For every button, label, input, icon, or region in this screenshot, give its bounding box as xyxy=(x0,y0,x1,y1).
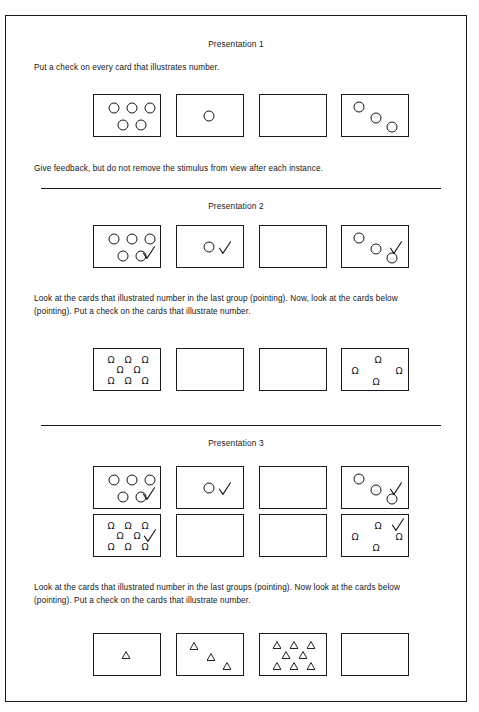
stimulus-card[interactable] xyxy=(259,514,327,557)
circle-shape xyxy=(118,251,129,262)
stimulus-card[interactable] xyxy=(341,466,409,509)
stimulus-card[interactable] xyxy=(259,348,327,391)
stimulus-card[interactable] xyxy=(259,633,327,676)
triangle-shape xyxy=(282,651,291,660)
triangle-shape xyxy=(290,662,299,671)
omega-symbol: Ω xyxy=(124,521,131,530)
triangle-shape xyxy=(207,653,216,662)
omega-symbol: Ω xyxy=(124,542,131,551)
triangle-shape xyxy=(190,642,199,651)
omega-symbol: Ω xyxy=(124,376,131,385)
circle-shape xyxy=(127,475,138,486)
instruction-text: Put a check on every card that illustrat… xyxy=(34,61,434,74)
stimulus-card[interactable] xyxy=(259,94,327,137)
circle-shape xyxy=(127,234,138,245)
stimulus-card[interactable] xyxy=(176,348,244,391)
circle-shape xyxy=(145,103,156,114)
triangle-shape xyxy=(122,651,131,660)
triangle-shape xyxy=(299,651,308,660)
circle-shape xyxy=(204,483,215,494)
omega-symbol: Ω xyxy=(374,521,381,530)
omega-symbol: Ω xyxy=(395,532,402,541)
instruction-text: Give feedback, but do not remove the sti… xyxy=(34,162,434,175)
instruction-text: Look at the cards that illustrated numbe… xyxy=(34,581,434,607)
circle-shape xyxy=(127,103,138,114)
stimulus-card[interactable] xyxy=(93,94,161,137)
triangle-shape xyxy=(273,662,282,671)
stimulus-card[interactable] xyxy=(176,94,244,137)
omega-symbol: Ω xyxy=(107,376,114,385)
stimulus-card[interactable] xyxy=(259,225,327,268)
omega-symbol: Ω xyxy=(372,377,379,386)
stimulus-card[interactable] xyxy=(341,94,409,137)
omega-symbol: Ω xyxy=(141,542,148,551)
stimulus-card[interactable] xyxy=(176,225,244,268)
stimulus-card[interactable] xyxy=(93,225,161,268)
omega-symbol: Ω xyxy=(372,543,379,552)
checkmark-icon xyxy=(144,529,157,543)
circle-shape xyxy=(371,485,382,496)
stimulus-card[interactable]: ΩΩΩΩΩΩΩΩ xyxy=(93,348,161,391)
omega-symbol: Ω xyxy=(107,355,114,364)
section-divider xyxy=(41,188,441,189)
triangle-shape xyxy=(307,662,316,671)
presentation-heading: Presentation 3 xyxy=(6,438,466,448)
checkmark-icon xyxy=(390,241,403,255)
omega-symbol: Ω xyxy=(141,376,148,385)
checkmark-icon xyxy=(219,482,232,496)
circle-shape xyxy=(145,234,156,245)
omega-symbol: Ω xyxy=(133,531,140,540)
circle-shape xyxy=(118,492,129,503)
omega-symbol: Ω xyxy=(351,366,358,375)
circle-shape xyxy=(371,244,382,255)
omega-symbol: Ω xyxy=(133,365,140,374)
circle-shape xyxy=(118,120,129,131)
omega-symbol: Ω xyxy=(116,365,123,374)
circle-shape xyxy=(145,475,156,486)
circle-shape xyxy=(109,475,120,486)
omega-symbol: Ω xyxy=(351,532,358,541)
triangle-shape xyxy=(273,641,282,650)
triangle-shape xyxy=(307,641,316,650)
stimulus-card[interactable] xyxy=(93,466,161,509)
circle-shape xyxy=(354,474,365,485)
stimulus-card[interactable] xyxy=(176,466,244,509)
worksheet-page-frame: Presentation 1Put a check on every card … xyxy=(5,15,467,702)
stimulus-card[interactable]: ΩΩΩΩ xyxy=(341,348,409,391)
triangle-shape xyxy=(223,662,232,671)
stimulus-card[interactable]: ΩΩΩΩ xyxy=(341,514,409,557)
triangle-shape xyxy=(290,641,299,650)
stimulus-card[interactable] xyxy=(341,225,409,268)
section-divider xyxy=(41,425,441,426)
omega-symbol: Ω xyxy=(107,521,114,530)
checkmark-icon xyxy=(219,241,232,255)
stimulus-card[interactable] xyxy=(259,466,327,509)
stimulus-card[interactable] xyxy=(176,633,244,676)
omega-symbol: Ω xyxy=(374,355,381,364)
omega-symbol: Ω xyxy=(124,355,131,364)
circle-shape xyxy=(204,242,215,253)
checkmark-icon xyxy=(392,518,405,532)
omega-symbol: Ω xyxy=(395,366,402,375)
circle-shape xyxy=(136,120,147,131)
stimulus-card[interactable] xyxy=(341,633,409,676)
presentation-heading: Presentation 1 xyxy=(6,39,466,49)
omega-symbol: Ω xyxy=(116,531,123,540)
stimulus-card[interactable]: ΩΩΩΩΩΩΩΩ xyxy=(93,514,161,557)
circle-shape xyxy=(387,122,398,133)
circle-shape xyxy=(109,234,120,245)
circle-shape xyxy=(109,103,120,114)
circle-shape xyxy=(354,102,365,113)
circle-shape xyxy=(354,233,365,244)
checkmark-icon xyxy=(143,246,156,260)
stimulus-card[interactable] xyxy=(93,633,161,676)
omega-symbol: Ω xyxy=(107,542,114,551)
presentation-heading: Presentation 2 xyxy=(6,201,466,211)
omega-symbol: Ω xyxy=(141,355,148,364)
checkmark-icon xyxy=(390,482,403,496)
stimulus-card[interactable] xyxy=(176,514,244,557)
instruction-text: Look at the cards that illustrated numbe… xyxy=(34,292,434,318)
checkmark-icon xyxy=(143,487,156,501)
circle-shape xyxy=(204,111,215,122)
circle-shape xyxy=(371,113,382,124)
